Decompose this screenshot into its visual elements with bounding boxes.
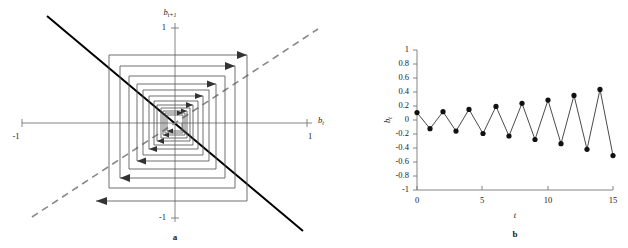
cobweb-arrow-heads: [96, 51, 247, 205]
ts-xlabel-5: 5: [480, 195, 484, 205]
ts-point: [414, 110, 419, 115]
ts-ylabel-n0p2: -0.2: [396, 128, 409, 138]
cobweb-ytick-label-pos1: 1: [162, 22, 166, 32]
ts-polyline: [417, 89, 613, 155]
ts-xlabel-0: 0: [415, 195, 419, 205]
timeseries-series: [414, 87, 615, 158]
ts-point: [584, 147, 589, 152]
panel-a-cobweb: -1 1 1 -1 bt bt+1 a: [0, 0, 340, 248]
ts-point: [466, 107, 471, 112]
arrow-left-3: [157, 138, 164, 144]
ts-xlabel-15: 15: [609, 195, 618, 205]
ts-point: [427, 126, 432, 131]
cobweb-labels: -1 1 1 -1 bt bt+1 a: [12, 7, 324, 242]
arrow-right-6: [225, 62, 235, 70]
ts-point: [493, 104, 498, 109]
arrow-right-4: [195, 93, 203, 99]
ts-point: [519, 101, 524, 106]
timeseries-svg: 1 0.8 0.6 0.4 0.2 0 -0.2 -0.4 -0.6 -0.8 …: [340, 0, 628, 248]
ts-point: [597, 87, 602, 92]
arrow-right-7: [237, 51, 247, 59]
arrow-right-5: [207, 81, 216, 88]
panel-b-label: b: [512, 229, 517, 239]
ts-markers: [414, 87, 615, 158]
cobweb-yaxis-label: bt+1: [164, 7, 177, 18]
panel-b-timeseries: 1 0.8 0.6 0.4 0.2 0 -0.2 -0.4 -0.6 -0.8 …: [340, 0, 628, 248]
cobweb-xaxis-label: bt: [318, 115, 324, 126]
ts-point: [532, 137, 537, 142]
ts-xaxis-title: t: [514, 210, 517, 220]
ts-ylabel-n0p4: -0.4: [396, 142, 410, 152]
arrow-left-4: [149, 146, 157, 152]
arrow-left-7: [96, 197, 107, 205]
ts-ylabel-n0p6: -0.6: [396, 156, 409, 166]
ts-point: [440, 109, 445, 114]
ts-ylabel-0p6: 0.6: [398, 72, 409, 82]
timeseries-axes: [413, 50, 613, 190]
cobweb-svg: -1 1 1 -1 bt bt+1 a: [0, 0, 340, 248]
ts-ylabel-0p8: 0.8: [398, 58, 409, 68]
cobweb-ytick-label-neg1: -1: [159, 212, 166, 222]
ts-point: [545, 98, 550, 103]
cobweb-xtick-label-neg1: -1: [12, 131, 19, 141]
ts-ylabel-0p4: 0.4: [398, 86, 409, 96]
arrow-right-3: [186, 102, 193, 108]
panel-a-label: a: [173, 232, 178, 242]
ts-ylabel-0: 0: [405, 114, 409, 124]
ts-point: [453, 129, 458, 134]
ts-point: [506, 133, 511, 138]
figure-container: -1 1 1 -1 bt bt+1 a: [0, 0, 628, 248]
ts-ylabel-n0p8: -0.8: [396, 170, 409, 180]
arrow-left-5: [137, 158, 146, 165]
ts-yaxis-title: bt: [382, 117, 393, 123]
ts-ylabel-1: 1: [405, 44, 409, 54]
ts-ylabel-0p2: 0.2: [398, 100, 409, 110]
ts-point: [480, 131, 485, 136]
ts-point: [558, 141, 563, 146]
arrow-left-6: [120, 174, 130, 182]
ts-ylabel-n1: -1: [402, 184, 409, 194]
cobweb-xtick-label-pos1: 1: [308, 131, 312, 141]
ts-xlabel-10: 10: [544, 195, 553, 205]
ts-point: [610, 153, 615, 158]
ts-point: [571, 93, 576, 98]
